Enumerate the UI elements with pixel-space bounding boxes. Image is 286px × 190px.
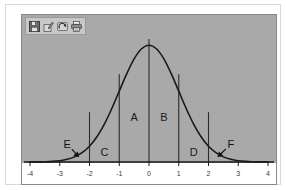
x-axis-tick-label: 3 — [231, 170, 245, 177]
region-label-d: D — [190, 146, 198, 158]
x-axis-tick-label: 0 — [142, 170, 156, 177]
outer-page-border: ABCD EF -4-3-2-101234 — [5, 4, 281, 185]
refresh-undo-icon — [57, 21, 68, 32]
x-axis-tick-label: 2 — [202, 170, 216, 177]
callout-f-label: F — [227, 138, 234, 150]
region-label-c: C — [100, 146, 108, 158]
region-label-a: A — [130, 111, 137, 123]
region-label-b: B — [160, 111, 167, 123]
print-icon-button[interactable] — [70, 20, 83, 33]
refresh-undo-icon-button[interactable] — [56, 20, 69, 33]
x-axis-tick-label: -2 — [83, 170, 97, 177]
save-floppy-icon — [29, 21, 40, 32]
x-axis-tick-label: -3 — [53, 170, 67, 177]
chart-figure-panel: ABCD EF -4-3-2-101234 — [21, 14, 277, 185]
x-axis-tick-label: 1 — [172, 170, 186, 177]
x-axis-tick-label: -1 — [112, 170, 126, 177]
save-floppy-icon-button[interactable] — [28, 20, 41, 33]
pencil-edit-icon-button[interactable] — [42, 20, 55, 33]
divider-group — [90, 39, 209, 162]
x-axis-tick-label: -4 — [23, 170, 37, 177]
bell-curve-svg — [22, 15, 276, 184]
x-axis-tick-label: 4 — [261, 170, 275, 177]
app-frame: ABCD EF -4-3-2-101234 — [0, 0, 286, 190]
plot-area: ABCD EF — [22, 15, 276, 163]
chart-toolbar[interactable] — [25, 17, 86, 35]
print-icon — [71, 21, 82, 32]
callout-e-label: E — [64, 138, 71, 150]
pencil-edit-icon — [43, 21, 54, 32]
